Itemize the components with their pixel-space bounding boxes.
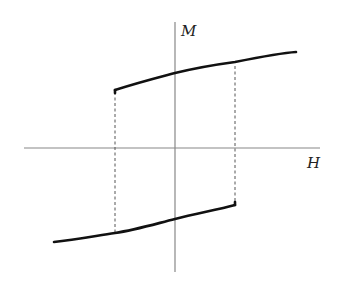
upper-branch	[115, 52, 296, 90]
m-axis-label: M	[180, 22, 197, 40]
lower-branch	[54, 205, 235, 242]
h-axis-label: H	[306, 154, 321, 172]
hysteresis-diagram: M H	[0, 0, 356, 287]
